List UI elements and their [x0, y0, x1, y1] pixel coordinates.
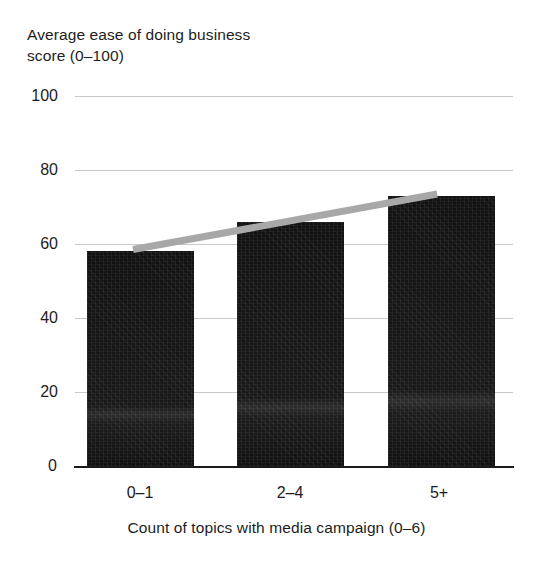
x-axis-baseline: 0	[74, 466, 514, 468]
x-axis-title: Count of topics with media campaign (0–6…	[0, 519, 553, 537]
y-tick-label-40: 40	[40, 309, 58, 327]
y-tick-label-0: 0	[48, 457, 57, 475]
bar-category-5-plus	[388, 196, 495, 466]
bar-category-0-1	[87, 251, 194, 466]
x-tick-label-0: 0–1	[127, 484, 154, 502]
y-tick-label-20: 20	[40, 383, 58, 401]
y-axis-title: Average ease of doing business score (0–…	[27, 24, 357, 66]
x-tick-label-2: 5+	[430, 484, 448, 502]
y-tick-label-100: 100	[31, 87, 58, 105]
chart-figure: Average ease of doing business score (0–…	[0, 0, 553, 564]
bar-category-2-4	[237, 222, 344, 466]
gridline-80: 80	[75, 170, 513, 171]
y-tick-label-80: 80	[40, 161, 58, 179]
plot-area: 100 80 60 40 20 0 0–1 2–4 5+	[75, 90, 513, 470]
x-tick-label-1: 2–4	[277, 484, 304, 502]
gridline-100: 100	[75, 96, 513, 97]
y-tick-label-60: 60	[40, 235, 58, 253]
